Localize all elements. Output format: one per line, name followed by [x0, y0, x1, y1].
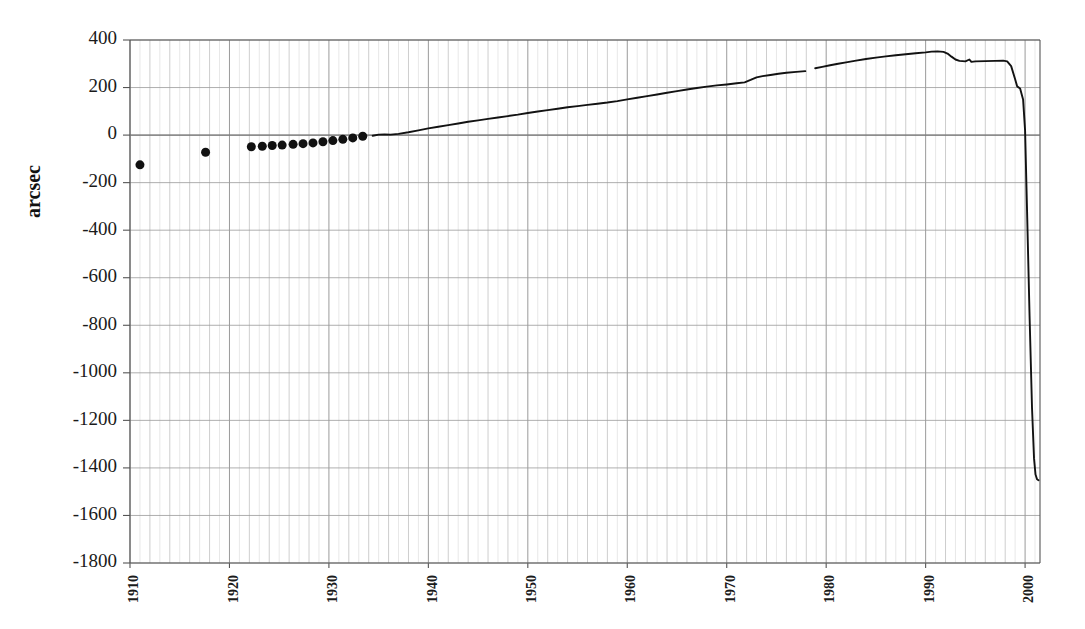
x-tick-label: 1960	[623, 575, 638, 603]
data-point-marker	[289, 140, 298, 149]
data-point-marker	[348, 133, 357, 142]
y-tick-label: -800	[82, 313, 117, 334]
data-point-marker	[135, 160, 144, 169]
data-point-marker	[247, 142, 256, 151]
x-tick-label: 1930	[325, 575, 340, 603]
x-tick-label: 1980	[822, 575, 837, 603]
data-point-marker	[338, 135, 347, 144]
y-axis-tick-labels: 4002000-200-400-600-800-1000-1200-1400-1…	[73, 27, 117, 571]
x-tick-label: 1940	[425, 575, 440, 603]
y-tick-label: -600	[82, 265, 117, 286]
x-tick-label: 1970	[723, 575, 738, 603]
data-point-marker	[308, 138, 317, 147]
series-line-continuous-record-segment-1	[373, 71, 806, 136]
y-tick-label: 0	[108, 122, 118, 143]
y-tick-label: -400	[82, 218, 117, 239]
data-point-marker	[278, 141, 287, 150]
data-point-marker	[358, 132, 367, 141]
data-point-marker	[328, 136, 337, 145]
y-axis-ticks	[123, 40, 130, 563]
y-tick-label: -1400	[73, 455, 117, 476]
x-tick-label: 2000	[1021, 575, 1036, 603]
data-point-marker	[201, 148, 210, 157]
y-tick-label: -1200	[73, 408, 117, 429]
y-tick-label: 400	[89, 27, 118, 48]
grid-horizontal	[130, 40, 1040, 563]
y-tick-label: -1600	[73, 503, 117, 524]
y-axis-title-text: arcsec	[22, 165, 44, 218]
chart-page: 4002000-200-400-600-800-1000-1200-1400-1…	[0, 0, 1085, 629]
data-point-marker	[299, 139, 308, 148]
data-point-marker	[258, 142, 267, 151]
y-tick-label: 200	[89, 75, 118, 96]
data-series-markers	[135, 132, 367, 170]
plot-frame	[130, 40, 1040, 563]
data-point-marker	[268, 141, 277, 150]
y-tick-label: -1000	[73, 360, 117, 381]
x-axis-tick-labels: 1910192019301940195019601970198019902000	[126, 575, 1036, 603]
chart-svg: 4002000-200-400-600-800-1000-1200-1400-1…	[0, 0, 1085, 629]
y-tick-label: -1800	[73, 550, 117, 571]
data-series-lines	[373, 51, 1039, 480]
x-tick-label: 1920	[226, 575, 241, 603]
y-axis-title: arcsec	[22, 165, 44, 218]
x-tick-label: 1990	[922, 575, 937, 603]
x-tick-label: 1950	[524, 575, 539, 603]
y-tick-label: -200	[82, 170, 117, 191]
grid-minor-vertical	[140, 40, 1035, 563]
x-tick-label: 1910	[126, 575, 141, 603]
data-point-marker	[318, 137, 327, 146]
